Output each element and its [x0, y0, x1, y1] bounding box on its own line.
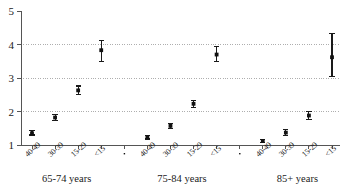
data-marker [99, 48, 103, 52]
y-tick-label-3: 3 [9, 72, 15, 84]
y-tick-label-2: 2 [9, 106, 15, 118]
data-point-0-3 [99, 40, 104, 61]
chart-container: 12345 40-4930-3915-29<1540-4930-3915-29<… [0, 0, 347, 193]
y-tick-label-4: 4 [9, 39, 15, 51]
data-point-1-2 [191, 100, 196, 107]
data-marker [145, 135, 149, 139]
x-axis-group-separator-4 [124, 153, 125, 154]
data-point-1-0 [145, 135, 150, 139]
data-point-2-2 [306, 112, 311, 120]
data-point-1-1 [168, 123, 173, 128]
data-point-0-2 [76, 86, 81, 95]
data-marker [53, 116, 57, 120]
scatter-plot-with-error-bars: 12345 [0, 0, 347, 193]
data-marker [169, 124, 173, 128]
data-point-0-0 [29, 131, 34, 135]
data-marker [330, 55, 334, 59]
data-point-2-3 [329, 33, 334, 76]
group-label-1: 75-84 years [157, 173, 206, 184]
data-point-1-3 [214, 47, 219, 62]
y-tick-label-5: 5 [9, 5, 15, 17]
group-label-2: 85+ years [277, 173, 318, 184]
group-label-0: 65-74 years [42, 173, 91, 184]
data-marker [284, 131, 288, 135]
data-point-0-1 [52, 114, 57, 121]
data-marker [307, 114, 311, 118]
data-marker [192, 102, 196, 106]
data-marker [76, 88, 80, 92]
y-tick-label-1: 1 [9, 139, 15, 151]
x-axis-group-separator-9 [239, 153, 240, 154]
data-point-2-1 [283, 130, 288, 135]
data-marker [215, 53, 219, 57]
data-marker [30, 131, 34, 135]
